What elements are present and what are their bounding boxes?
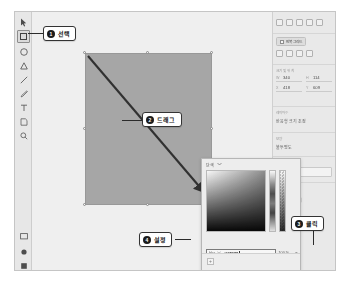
callout-1-number: 1	[47, 30, 55, 38]
line-icon	[20, 76, 28, 84]
tool-zoom[interactable]	[17, 129, 30, 142]
boolean-ops-row[interactable]	[276, 50, 332, 57]
tool-rectangle[interactable]	[17, 30, 30, 43]
callout-3-number: 3	[295, 220, 303, 228]
tool-plugins[interactable]	[17, 259, 30, 271]
tools-panel	[15, 12, 32, 270]
layout-section: 레이아웃 반응형 크기 조정	[273, 107, 335, 133]
layout-label: 레이아웃	[276, 110, 332, 115]
align-top-icon[interactable]	[306, 19, 313, 26]
selected-rectangle[interactable]	[85, 53, 212, 205]
union-icon[interactable]	[276, 50, 283, 57]
align-icon-row[interactable]	[276, 15, 332, 26]
field-y-key: Y	[306, 86, 311, 90]
callout-2-text: 드래그	[157, 115, 176, 124]
repeat-grid-icon	[280, 40, 284, 44]
align-section	[273, 12, 335, 34]
saturation-value-area[interactable]	[206, 170, 266, 232]
align-right-icon[interactable]	[296, 19, 303, 26]
color-picker-popup[interactable]: 단색 Hex #00E0FF 100 %	[201, 158, 301, 271]
ellipse-icon	[20, 48, 28, 56]
callout-4-leader	[175, 239, 191, 240]
callout-4-number: 4	[143, 236, 151, 244]
intersect-icon[interactable]	[296, 50, 303, 57]
align-left-icon[interactable]	[276, 19, 283, 26]
field-height-value: 114	[313, 75, 320, 80]
selection-handle-tc[interactable]	[146, 51, 149, 54]
color-picker-body	[202, 170, 300, 232]
callout-2-number: 2	[146, 116, 154, 124]
transform-fields: W 340 H 114 X 418 Y 609	[276, 75, 332, 92]
tool-pen[interactable]	[17, 87, 30, 100]
tool-artboard[interactable]	[17, 115, 30, 128]
field-x-value: 418	[283, 85, 290, 90]
callout-3-text: 클릭	[306, 219, 318, 228]
appearance-section: 모양 불투명도	[273, 133, 335, 157]
selection-handle-tl[interactable]	[83, 51, 86, 54]
triangle-icon	[20, 62, 28, 70]
app-window: 반복 그리드 크기 및 위치 W 340	[14, 11, 336, 271]
add-swatch-button[interactable]: +	[207, 258, 214, 265]
chevron-down-icon[interactable]	[217, 162, 222, 167]
field-x[interactable]: X 418	[276, 85, 302, 92]
callout-3-leader	[313, 231, 314, 245]
tool-ellipse[interactable]	[17, 45, 30, 58]
zoom-icon	[20, 132, 28, 140]
layers-icon	[20, 233, 28, 240]
appearance-label: 모양	[276, 136, 332, 141]
selection-handle-ml[interactable]	[83, 127, 86, 130]
field-height[interactable]: H 114	[306, 75, 332, 82]
assets-icon	[20, 248, 28, 256]
tool-layers[interactable]	[17, 230, 30, 243]
callout-2-leader	[122, 120, 144, 121]
field-y[interactable]: Y 609	[306, 85, 332, 92]
selection-handle-mr[interactable]	[210, 127, 213, 130]
field-width[interactable]: W 340	[276, 75, 302, 82]
alpha-slider[interactable]	[279, 170, 286, 232]
field-width-key: W	[276, 76, 281, 80]
callout-4-text: 설정	[154, 235, 166, 244]
tool-polygon[interactable]	[17, 59, 30, 72]
repeat-grid-section: 반복 그리드	[273, 34, 335, 65]
align-center-horizontal-icon[interactable]	[286, 19, 293, 26]
transform-label: 크기 및 위치	[276, 68, 332, 73]
callout-select: 1 선택	[43, 26, 76, 41]
field-x-key: X	[276, 86, 281, 90]
tool-text[interactable]	[17, 101, 30, 114]
text-icon	[20, 104, 28, 112]
align-middle-icon[interactable]	[316, 19, 323, 26]
plugins-icon	[20, 262, 28, 270]
color-picker-footer: +	[202, 253, 300, 270]
hue-slider[interactable]	[269, 170, 276, 232]
subtract-icon[interactable]	[286, 50, 293, 57]
color-mode-label[interactable]: 단색	[206, 162, 214, 168]
callout-click: 3 클릭	[291, 216, 324, 231]
selection-handle-tr[interactable]	[210, 51, 213, 54]
tool-cursor[interactable]	[17, 16, 30, 29]
selection-handle-bl[interactable]	[83, 203, 86, 206]
pen-icon	[20, 90, 28, 98]
rectangle-icon	[20, 33, 27, 40]
field-height-key: H	[306, 76, 311, 80]
screenshot-root: 반복 그리드 크기 및 위치 W 340	[0, 0, 352, 284]
responsive-resize-option[interactable]: 반응형 크기 조정	[276, 117, 332, 125]
exclude-icon[interactable]	[306, 50, 313, 57]
callout-drag: 2 드래그	[142, 112, 182, 127]
repeat-grid-label: 반복 그리드	[286, 39, 302, 44]
field-width-value: 340	[283, 75, 290, 80]
callout-1-text: 선택	[58, 29, 70, 38]
callout-setting: 4 설정	[139, 232, 172, 247]
repeat-grid-button[interactable]: 반복 그리드	[276, 37, 332, 46]
opacity-label: 불투명도	[276, 143, 332, 151]
color-picker-header: 단색	[202, 159, 300, 170]
selection-handle-bc[interactable]	[146, 203, 149, 206]
tool-line[interactable]	[17, 73, 30, 86]
artboard-icon	[20, 118, 28, 126]
field-y-value: 609	[313, 85, 320, 90]
cursor-icon	[20, 18, 27, 27]
transform-section: 크기 및 위치 W 340 H 114 X 418 Y	[273, 65, 335, 107]
tool-assets[interactable]	[17, 245, 30, 258]
